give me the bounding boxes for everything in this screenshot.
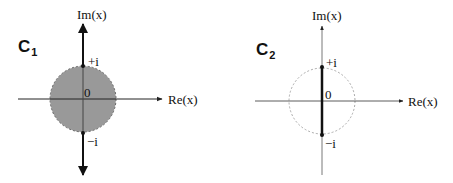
point-plus-i [81, 64, 85, 68]
diagram-c2: Im(x) Re(x) 0 +i −i C2 [255, 8, 438, 175]
origin-label: 0 [84, 85, 91, 100]
origin-label: 0 [325, 87, 332, 102]
point-minus-i [81, 131, 85, 135]
x-axis-label: Re(x) [408, 94, 438, 109]
diagram-canvas: Im(x) Re(x) 0 +i −i C1 Im(x) Re(x) 0 +i … [0, 0, 453, 183]
y-axis-label: Im(x) [312, 8, 342, 23]
contour-label: C2 [256, 40, 275, 61]
diagram-c1: Im(x) Re(x) 0 +i −i C1 [18, 7, 198, 175]
minus-i-label: −i [325, 136, 336, 151]
y-axis-label: Im(x) [77, 7, 107, 22]
point-plus-i [320, 65, 324, 69]
plus-i-label: +i [88, 54, 99, 69]
x-axis-label: Re(x) [168, 92, 198, 107]
contour-label: C1 [18, 37, 37, 58]
plus-i-label: +i [326, 55, 337, 70]
minus-i-label: −i [87, 134, 98, 149]
point-minus-i [320, 133, 324, 137]
